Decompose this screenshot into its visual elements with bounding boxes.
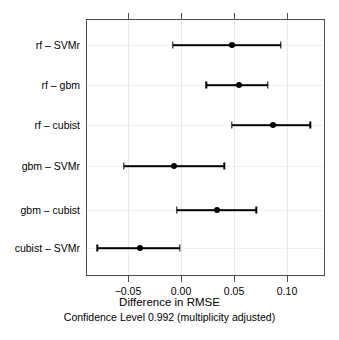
y-axis-label-5: cubist – SVMr [0, 242, 80, 254]
point-estimate-4 [214, 207, 220, 213]
point-estimate-5 [137, 245, 143, 251]
y-axis-label-4: gbm – cubist [0, 204, 80, 216]
x-tick-bottom-1 [181, 276, 182, 282]
y-axis-label-0: rf – SVMr [0, 39, 80, 51]
confidence-interval-line-0 [173, 44, 281, 46]
interval-cap-4-lower [176, 207, 177, 214]
y-axis-label-1: rf – gbm [0, 79, 80, 91]
plot-area [86, 19, 325, 276]
point-estimate-3 [171, 163, 177, 169]
interval-cap-3-upper [224, 163, 225, 170]
x-tick-bottom-0 [128, 276, 129, 282]
interval-cap-5-lower [97, 245, 98, 252]
x-tick-bottom-2 [234, 276, 235, 282]
confidence-interval-plot: −0.050.000.050.10 rf – SVMrrf – gbmrf – … [0, 0, 339, 340]
gridline-vertical-1 [181, 20, 182, 275]
interval-cap-2-upper [310, 122, 311, 129]
x-tick-top-2 [234, 13, 235, 19]
x-tick-bottom-3 [287, 276, 288, 282]
interval-cap-1-lower [206, 82, 207, 89]
point-estimate-2 [270, 122, 276, 128]
gridline-vertical-0 [128, 20, 129, 275]
interval-cap-4-upper [256, 207, 257, 214]
gridline-vertical-3 [287, 20, 288, 275]
interval-cap-1-upper [267, 82, 268, 89]
x-tick-top-0 [128, 13, 129, 19]
x-axis-title: Difference in RMSE [0, 296, 339, 309]
x-tick-top-3 [287, 13, 288, 19]
interval-cap-2-lower [231, 122, 232, 129]
x-tick-top-1 [181, 13, 182, 19]
y-axis-label-3: gbm – SVMr [0, 160, 80, 172]
point-estimate-1 [236, 82, 242, 88]
interval-cap-3-lower [123, 163, 124, 170]
interval-cap-5-upper [179, 245, 180, 252]
chart-subtitle: Confidence Level 0.992 (multiplicity adj… [0, 311, 339, 323]
gridline-vertical-2 [234, 20, 235, 275]
interval-cap-0-upper [280, 42, 281, 49]
interval-cap-0-lower [172, 42, 173, 49]
point-estimate-0 [229, 42, 235, 48]
y-axis-label-2: rf – cubist [0, 119, 80, 131]
